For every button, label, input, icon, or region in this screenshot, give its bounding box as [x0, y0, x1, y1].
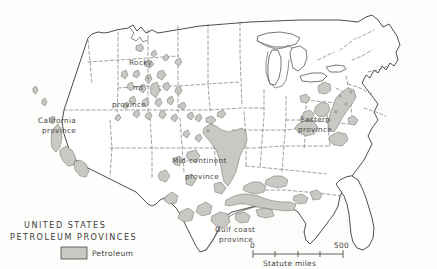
label-midcontinent-line1: Mid-continent — [172, 156, 227, 165]
legend-swatch-petroleum — [61, 247, 87, 259]
label-eastern-line2: province — [298, 125, 332, 134]
petroleum-province-map: Rocky mt province California province Mi… — [0, 0, 437, 269]
label-california-line2: province — [42, 126, 76, 135]
scale-label: Statute miles — [263, 259, 316, 268]
label-rocky-line1: Rocky — [129, 58, 153, 67]
province-label-eastern: Eastern province — [298, 115, 332, 134]
label-gulfcoast-line2: province — [219, 235, 253, 244]
title-line-2: PETROLEUM PROVINCES — [10, 232, 137, 242]
label-eastern-line1: Eastern — [300, 115, 330, 124]
florida-peninsula — [336, 176, 374, 250]
map-title-block: UNITED STATES PETROLEUM PROVINCES — [10, 220, 137, 242]
map-legend: Petroleum — [61, 247, 133, 259]
label-gulfcoast-line1: Gulf coast — [215, 225, 255, 234]
title-line-1: UNITED STATES — [24, 220, 106, 230]
label-midcontinent-line2: province — [185, 172, 219, 181]
label-rocky-line2: mt — [133, 83, 144, 92]
label-rocky-line3: province — [112, 100, 146, 109]
label-california-line1: California — [38, 116, 76, 125]
province-label-california: California province — [38, 116, 76, 135]
scale-tick-max: 500 — [334, 241, 349, 250]
scale-tick-min: 0 — [250, 241, 255, 250]
scale-bar: 0 500 Statute miles — [250, 241, 349, 268]
legend-label-petroleum: Petroleum — [92, 249, 133, 258]
